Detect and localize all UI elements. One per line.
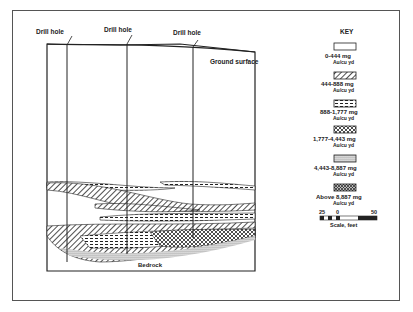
drill-hole-label-2: Drill hole — [104, 26, 132, 33]
swatch-dense-dots — [334, 155, 356, 162]
legend-unit: Au/cu yd — [333, 115, 354, 121]
swatch-diagonal — [334, 72, 356, 79]
legend-unit: Au/cu yd — [333, 200, 354, 206]
legend-title: KEY — [340, 28, 354, 35]
svg-text:Scale, feet: Scale, feet — [330, 222, 357, 228]
legend-unit: Au/cu yd — [333, 142, 354, 148]
drill-hole-label-1: Drill hole — [36, 28, 64, 35]
legend-unit: Au/cu yd — [333, 87, 354, 93]
svg-text:25: 25 — [319, 209, 325, 215]
svg-text:0: 0 — [336, 209, 339, 215]
legend-unit: Au/cu yd — [333, 171, 354, 177]
drill-hole-label-3: Drill hole — [173, 29, 201, 36]
svg-text:50: 50 — [371, 209, 377, 215]
cross-section-diagram: Drill hole Drill hole Drill hole Ground … — [0, 0, 413, 312]
legend: KEY 0-444 mg Au/cu yd 444-888 mg Au/cu y… — [313, 28, 377, 228]
legend-unit: Au/cu yd — [333, 59, 354, 65]
swatch-dashes — [334, 100, 356, 107]
scale-bar: 25 0 50 Scale, feet — [319, 209, 377, 228]
swatch-crosses — [334, 126, 356, 133]
swatch-crosshatch — [334, 184, 356, 191]
ground-surface-label: Ground surface — [210, 58, 259, 65]
bedrock-label: Bedrock — [138, 262, 163, 268]
swatch-blank — [334, 43, 356, 50]
